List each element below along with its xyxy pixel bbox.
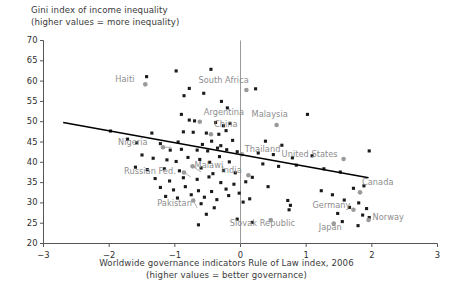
data-point-marker — [356, 224, 359, 227]
y-tick-label: 50 — [16, 116, 38, 126]
data-point-marker — [197, 189, 200, 192]
data-point-marker — [228, 160, 231, 163]
data-point-marker — [210, 190, 213, 193]
data-point-marker — [209, 68, 212, 71]
data-point-marker — [352, 187, 355, 190]
data-point-marker — [331, 193, 334, 196]
data-point-marker — [261, 162, 264, 165]
data-point-marker — [196, 178, 199, 181]
highlight-point-marker — [351, 208, 356, 213]
data-point-marker — [178, 169, 181, 172]
y-tick-label: 40 — [16, 157, 38, 167]
data-point-marker — [175, 69, 178, 72]
data-point-marker — [227, 194, 230, 197]
data-point-marker — [202, 92, 205, 95]
y-tick-label: 30 — [16, 197, 38, 207]
data-point-marker — [196, 149, 199, 152]
data-point-marker — [361, 214, 364, 217]
country-label-japan: Japan — [319, 222, 342, 232]
data-point-marker — [217, 133, 220, 136]
data-point-marker — [182, 176, 185, 179]
data-point-marker — [306, 113, 309, 116]
country-label-germany: Germany — [312, 200, 350, 210]
highlight-point-marker — [366, 218, 371, 223]
data-point-marker — [188, 87, 191, 90]
country-label-argentina: Argentina — [204, 107, 244, 117]
country-label-malawi: Malawi — [195, 160, 224, 170]
data-point-marker — [175, 160, 178, 163]
data-point-marker — [184, 185, 187, 188]
data-point-marker — [207, 175, 210, 178]
data-point-marker — [150, 132, 153, 135]
data-point-marker — [254, 87, 257, 90]
data-point-marker — [368, 149, 371, 152]
data-point-marker — [244, 180, 247, 183]
data-point-marker — [182, 130, 185, 133]
data-point-marker — [201, 143, 204, 146]
highlight-point-marker — [274, 123, 279, 128]
data-point-marker — [218, 155, 221, 158]
data-point-marker — [165, 158, 168, 161]
country-label-india: India — [221, 165, 241, 175]
y-tick-label: 60 — [16, 76, 38, 86]
country-label-pakistan: Pakistan — [157, 198, 192, 208]
data-point-marker — [225, 188, 228, 191]
data-point-marker — [242, 201, 245, 204]
data-point-marker — [336, 212, 339, 215]
data-point-marker — [219, 144, 222, 147]
country-label-russian-fed: Russian Fed. — [124, 166, 176, 176]
data-point-marker — [197, 223, 200, 226]
country-label-canada: Canada — [362, 177, 393, 187]
data-point-marker — [210, 140, 213, 143]
data-point-marker — [289, 204, 292, 207]
y-tick-label: 25 — [16, 218, 38, 228]
data-point-marker — [180, 113, 183, 116]
data-point-marker — [180, 148, 183, 151]
x-axis-label-line2: (higher values = better governance) — [0, 270, 453, 280]
data-point-marker — [236, 150, 239, 153]
data-point-marker — [267, 185, 270, 188]
data-point-marker — [182, 94, 185, 97]
data-point-marker — [220, 100, 223, 103]
y-tick-label: 35 — [16, 177, 38, 187]
data-point-marker — [280, 144, 283, 147]
data-point-marker — [206, 149, 209, 152]
data-point-marker — [248, 197, 251, 200]
data-point-marker — [205, 132, 208, 135]
y-tick-label: 20 — [16, 238, 38, 248]
data-point-marker — [172, 188, 175, 191]
data-point-marker — [192, 131, 195, 134]
data-point-marker — [225, 148, 228, 151]
data-point-marker — [169, 149, 172, 152]
data-point-marker — [238, 192, 241, 195]
highlight-point-marker — [209, 132, 214, 137]
country-label-south-africa: South Africa — [198, 75, 248, 85]
data-point-marker — [140, 153, 143, 156]
data-point-marker — [357, 201, 360, 204]
data-point-marker — [215, 198, 218, 201]
data-point-marker — [188, 119, 191, 122]
data-point-marker — [168, 179, 171, 182]
data-point-marker — [320, 189, 323, 192]
country-label-china: China — [214, 119, 238, 129]
data-point-marker — [159, 142, 162, 145]
data-point-marker — [213, 206, 216, 209]
y-tick-label: 70 — [16, 35, 38, 45]
data-point-marker — [154, 177, 157, 180]
country-label-nigeria: Nigeria — [118, 137, 148, 147]
data-point-marker — [193, 119, 196, 122]
data-point-marker — [232, 183, 235, 186]
highlight-point-marker — [358, 190, 363, 195]
highlight-point-marker — [244, 88, 249, 93]
data-point-marker — [190, 193, 193, 196]
data-point-marker — [203, 196, 206, 199]
country-label-thailand: Thailand — [245, 144, 281, 154]
highlight-point-marker — [341, 157, 346, 162]
data-point-marker — [145, 75, 148, 78]
data-point-marker — [211, 172, 214, 175]
y-tick-label: 65 — [16, 55, 38, 65]
scatter-chart: Gini index of income inequality (higher … — [0, 0, 453, 297]
plot-area — [0, 0, 453, 297]
y-tick-label: 45 — [16, 137, 38, 147]
label-leader-line — [184, 172, 191, 176]
